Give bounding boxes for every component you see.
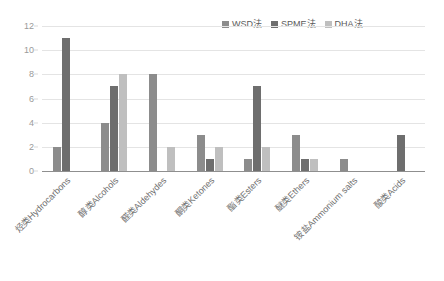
x-axis-category-label: 醚类Ethers [274, 176, 311, 213]
bar-group [42, 26, 90, 171]
y-tick-mark [34, 122, 38, 123]
bar[interactable] [292, 135, 300, 171]
y-tick-mark [34, 74, 38, 75]
bar[interactable] [253, 86, 261, 171]
x-axis-category-label: 醛类Aldehydes [119, 176, 168, 225]
bar-group [234, 26, 282, 171]
y-tick-label: 10 [24, 46, 34, 55]
bar-group [186, 26, 234, 171]
bar[interactable] [206, 159, 214, 171]
bar-group [281, 26, 329, 171]
bar[interactable] [119, 74, 127, 171]
bar[interactable] [149, 74, 157, 171]
bar[interactable] [397, 135, 405, 171]
bar[interactable] [301, 159, 309, 171]
y-tick-mark [34, 146, 38, 147]
bar-groups [42, 26, 425, 171]
bar-group [329, 26, 377, 171]
bar[interactable] [101, 123, 109, 171]
x-axis-category-label: 酸类Acids [373, 176, 408, 211]
bar[interactable] [167, 147, 175, 171]
bar[interactable] [110, 86, 118, 171]
bar-group [377, 26, 425, 171]
y-tick-mark [34, 98, 38, 99]
bar[interactable] [197, 135, 205, 171]
y-axis: 024681012 [0, 26, 38, 171]
bar-group [90, 26, 138, 171]
bar[interactable] [244, 159, 252, 171]
y-tick-mark [34, 171, 38, 172]
x-axis-category-label: 烃类Hydrocarbons [14, 176, 73, 235]
bar-chart: WSD法SPME法DHA法 024681012 烃类Hydrocarbons醇类… [0, 0, 444, 281]
bar[interactable] [215, 147, 223, 171]
bar[interactable] [310, 159, 318, 171]
y-tick-label: 12 [24, 22, 34, 31]
x-axis-category-label: 酮类Ketones [173, 176, 215, 218]
x-axis-category-label: 酯类Esters [227, 176, 264, 213]
x-axis-category-label: 醇类Alcohols [77, 176, 120, 219]
plot-area [42, 26, 425, 171]
bar[interactable] [53, 147, 61, 171]
bar[interactable] [62, 38, 70, 171]
bar[interactable] [262, 147, 270, 171]
bar-group [138, 26, 186, 171]
y-tick-mark [34, 26, 38, 27]
y-tick-mark [34, 50, 38, 51]
bar[interactable] [340, 159, 348, 171]
x-axis-labels: 烃类Hydrocarbons醇类Alcohols醛类Aldehydes酮类Ket… [42, 172, 425, 277]
